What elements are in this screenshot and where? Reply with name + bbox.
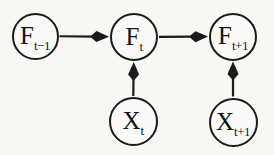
node-label: Ft−1 bbox=[20, 23, 50, 48]
node-sub-text: t+1 bbox=[234, 125, 250, 138]
node-sub-text: t bbox=[139, 40, 142, 53]
node-main-text: X bbox=[216, 109, 234, 134]
arrowhead-icon bbox=[90, 31, 109, 42]
node-label: Ft+1 bbox=[218, 23, 248, 48]
node-main-text: F bbox=[20, 23, 34, 48]
node-f-t-minus-1: Ft−1 bbox=[12, 13, 59, 60]
diagram-canvas: Ft−1 Ft Ft+1 Xt Xt+1 bbox=[0, 0, 274, 155]
node-main-text: F bbox=[218, 23, 232, 48]
node-label: Xt bbox=[122, 108, 143, 133]
node-x-t-plus-1: Xt+1 bbox=[209, 98, 258, 147]
node-label: Xt+1 bbox=[216, 109, 250, 134]
node-sub-text: t+1 bbox=[232, 39, 248, 52]
node-label: Ft bbox=[125, 24, 142, 49]
edge-X_t-to-F_t bbox=[128, 62, 139, 96]
node-sub-text: t bbox=[140, 124, 143, 137]
node-f-t-plus-1: Ft+1 bbox=[209, 13, 257, 61]
node-f-t: Ft bbox=[110, 13, 158, 61]
node-main-text: F bbox=[125, 24, 139, 49]
arrowhead-icon bbox=[128, 62, 139, 81]
node-main-text: X bbox=[122, 108, 140, 133]
edge-X_t+1-to-F_t+1 bbox=[228, 62, 239, 97]
arrowhead-icon bbox=[228, 62, 239, 81]
edge-F_t-to-F_t+1 bbox=[159, 31, 208, 42]
node-x-t: Xt bbox=[109, 97, 158, 146]
node-sub-text: t−1 bbox=[34, 39, 50, 52]
arrowhead-icon bbox=[189, 31, 208, 42]
edge-F_t-1-to-F_t bbox=[59, 31, 109, 42]
